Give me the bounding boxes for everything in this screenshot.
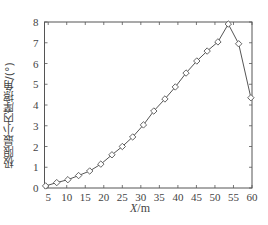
- y-tick-label: 3: [33, 120, 39, 132]
- series-line: [46, 24, 251, 186]
- diamond-marker: [248, 95, 254, 101]
- plot-border: [45, 22, 253, 188]
- diamond-marker: [65, 177, 71, 183]
- y-axis-label: 极限最小内摩擦角/(°): [2, 40, 18, 190]
- y-tick-label: 4: [33, 99, 39, 111]
- axis-ticks: 51015202530354045505560012345678: [33, 16, 258, 203]
- line-chart: 51015202530354045505560012345678: [0, 0, 268, 225]
- y-tick-label: 2: [33, 141, 39, 153]
- x-tick-label: 15: [80, 191, 92, 203]
- x-tick-label: 60: [247, 191, 259, 203]
- diamond-marker: [54, 179, 60, 185]
- y-tick-label: 7: [33, 37, 39, 49]
- y-tick-label: 5: [33, 78, 39, 90]
- data-series: [42, 21, 254, 189]
- x-tick-label: 5: [45, 191, 51, 203]
- y-tick-label: 0: [33, 182, 39, 194]
- x-tick-label: 50: [209, 191, 221, 203]
- x-tick-label: 25: [117, 191, 129, 203]
- x-tick-label: 20: [98, 191, 110, 203]
- x-axis-label: X/m: [130, 201, 150, 216]
- y-tick-label: 8: [33, 16, 39, 28]
- x-axis-unit: /m: [137, 201, 150, 215]
- diamond-marker: [75, 172, 81, 178]
- y-tick-label: 6: [33, 58, 39, 70]
- x-tick-label: 10: [61, 191, 73, 203]
- x-tick-label: 40: [172, 191, 184, 203]
- x-tick-label: 35: [154, 191, 166, 203]
- x-tick-label: 55: [228, 191, 240, 203]
- diamond-marker: [235, 41, 241, 47]
- diamond-marker: [87, 168, 93, 174]
- y-tick-label: 1: [33, 161, 39, 173]
- x-tick-label: 45: [191, 191, 203, 203]
- plot-frame: [45, 22, 253, 188]
